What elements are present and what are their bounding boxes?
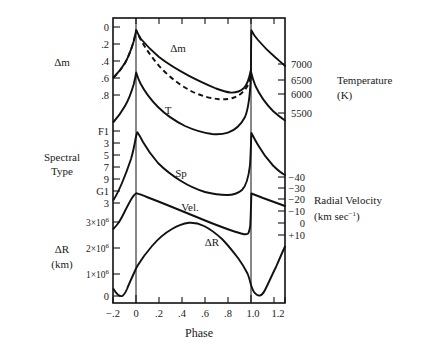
tick-temperature-5500: 5500 (291, 108, 312, 119)
tick-x-0.8: .8 (224, 308, 232, 319)
axis-label-delta-r-line1: ΔR (55, 243, 70, 255)
tick-x-1.2: 1.2 (271, 308, 284, 319)
tick-delta-m-0.4: .4 (101, 56, 110, 67)
left-ticks-delta-r (113, 222, 120, 296)
tick-velocity-minus10: −10 (289, 206, 305, 217)
tick-spectral-F5: 5 (104, 150, 109, 161)
tick-spectral-G1: G1 (96, 186, 109, 197)
tick-spectral-F9: 9 (104, 174, 109, 185)
tick-temperature-6000: 6000 (291, 89, 312, 100)
curve-spectral-type (114, 132, 286, 200)
curve-radial-velocity (114, 193, 286, 234)
cepheid-phase-diagram-figure: 0 .2 .4 .6 .8 F1 3 5 7 9 G1 3 3×106 2×10… (0, 0, 431, 358)
tick-velocity-minus40: −40 (289, 172, 305, 183)
x-axis-label: Phase (185, 326, 213, 340)
tick-x-0.6: .6 (201, 308, 209, 319)
tick-spectral-F7: 7 (104, 162, 109, 173)
tick-labels-temperature: 7000 6500 6000 5500 (291, 59, 312, 119)
axis-label-spectral-type-line1: Spectral (44, 151, 80, 163)
tick-x-0.2: .2 (155, 308, 163, 319)
curve-label-delta-m: Δm (170, 42, 186, 54)
axis-label-radial-velocity-line2: (km sec−1) (314, 210, 360, 223)
tick-labels-x-axis: −.2 0 .2 .4 .6 .8 1.0 1.2 (106, 308, 284, 319)
right-ticks-temperature (278, 64, 285, 113)
left-ticks-delta-m (113, 27, 120, 95)
tick-velocity-minus20: −20 (289, 194, 305, 205)
curve-label-delta-r: ΔR (205, 236, 220, 248)
curve-label-velocity: Vel. (181, 201, 199, 213)
tick-delta-r-1e6: 1×106 (86, 268, 110, 280)
tick-delta-m-0.8: .8 (101, 90, 109, 101)
curve-delta-m-solid (114, 30, 286, 92)
axis-label-delta-m: Δm (54, 56, 70, 68)
tick-delta-m-0.2: .2 (101, 39, 109, 50)
plot-frame (113, 18, 285, 303)
tick-spectral-G3: 3 (104, 198, 109, 209)
tick-x-1.0: 1.0 (246, 308, 259, 319)
tick-velocity-minus30: −30 (289, 183, 305, 194)
tick-labels-delta-r: 3×106 2×106 1×106 0 (86, 216, 110, 302)
tick-x-0.4: .4 (178, 308, 187, 319)
tick-delta-r-0: 0 (104, 291, 109, 302)
top-axis-ticks (136, 18, 274, 24)
axis-label-temperature-line1: Temperature (337, 74, 393, 86)
chart-svg: 0 .2 .4 .6 .8 F1 3 5 7 9 G1 3 3×106 2×10… (0, 0, 431, 358)
tick-delta-r-3e6: 3×106 (86, 216, 110, 228)
curve-label-temperature: T (165, 104, 172, 116)
tick-temperature-6500: 6500 (291, 75, 312, 86)
tick-labels-velocity: −40 −30 −20 −10 0 +10 (289, 172, 305, 241)
tick-velocity-0: 0 (300, 218, 305, 229)
tick-delta-r-2e6: 2×106 (86, 242, 110, 254)
axis-label-radial-velocity-line1: Radial Velocity (314, 194, 382, 206)
reference-lines (136, 18, 251, 303)
tick-labels-spectral: F1 3 5 7 9 G1 3 (96, 126, 109, 209)
tick-velocity-plus10: +10 (289, 230, 305, 241)
tick-spectral-F3: 3 (104, 138, 109, 149)
axis-label-spectral-type-line2: Type (51, 165, 73, 177)
left-ticks-spectral (113, 131, 120, 203)
tick-temperature-7000: 7000 (291, 59, 312, 70)
tick-x-minus0.2: −.2 (106, 308, 120, 319)
curve-delta-r (114, 223, 286, 296)
tick-delta-m-0: 0 (104, 22, 109, 33)
tick-spectral-F1: F1 (98, 126, 109, 137)
axis-label-delta-r-line2: (km) (51, 258, 73, 271)
tick-delta-m-0.6: .6 (101, 73, 109, 84)
curve-label-spectral: Sp (175, 167, 187, 179)
tick-x-0: 0 (133, 308, 138, 319)
tick-labels-delta-m: 0 .2 .4 .6 .8 (101, 22, 110, 101)
axis-label-temperature-line2: (K) (337, 89, 353, 102)
